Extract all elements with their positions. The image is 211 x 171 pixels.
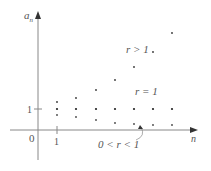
data-point: [114, 79, 116, 81]
data-point: [133, 123, 135, 125]
series-r-eq-1: [56, 108, 173, 110]
data-point: [56, 114, 58, 116]
annotation-r-eq-1: r = 1: [135, 85, 158, 97]
data-point: [95, 108, 97, 110]
pointer-arrow-icon: [138, 125, 143, 129]
data-point: [171, 32, 173, 34]
data-point: [152, 108, 154, 110]
y-tick-label-1: 1: [27, 104, 32, 115]
data-point: [171, 124, 173, 126]
data-point: [133, 108, 135, 110]
series-r-lt-1: [56, 114, 173, 126]
data-point: [152, 51, 154, 53]
x-tick-label-1: 1: [54, 136, 59, 147]
data-point: [152, 124, 154, 126]
sequence-plot: an n 0 1 1 r > 1 r = 1 0 < r < 1: [0, 0, 211, 171]
data-point: [171, 108, 173, 110]
data-point: [95, 119, 97, 121]
data-point: [114, 108, 116, 110]
y-axis-label: an: [24, 9, 34, 24]
data-point: [75, 97, 77, 99]
data-point: [56, 101, 58, 103]
y-axis-arrow-icon: [35, 11, 41, 19]
data-point: [133, 66, 135, 68]
origin-label: 0: [29, 132, 35, 144]
annotation-r-gt-1: r > 1: [126, 43, 149, 55]
data-point: [75, 108, 77, 110]
data-point: [95, 89, 97, 91]
data-point: [75, 116, 77, 118]
data-point: [56, 108, 58, 110]
x-axis-label: n: [191, 133, 196, 144]
annotation-r-lt-1: 0 < r < 1: [98, 138, 139, 150]
data-point: [114, 122, 116, 124]
